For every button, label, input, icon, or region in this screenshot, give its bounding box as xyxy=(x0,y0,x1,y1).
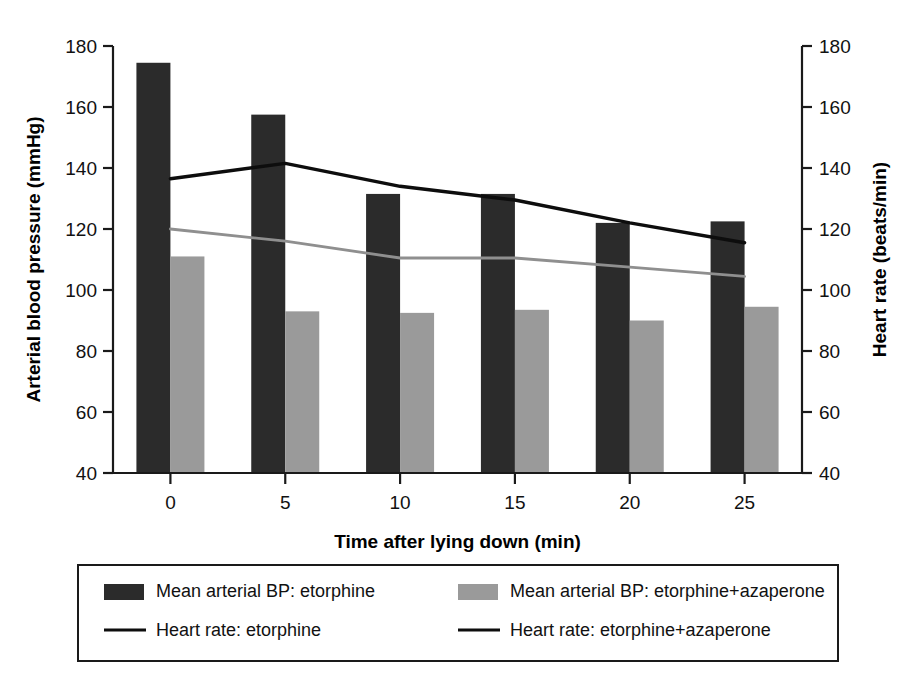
y2-axis-title: Heart rate (beats/min) xyxy=(869,162,890,357)
legend-item: Heart rate: etorphine xyxy=(104,620,321,640)
y-axis-tick-label: 160 xyxy=(65,97,97,118)
legend-swatch-icon xyxy=(104,584,144,600)
y2-axis-tick-label: 140 xyxy=(819,158,851,179)
bar xyxy=(515,310,549,473)
x-axis-tick-label: 0 xyxy=(165,492,176,513)
chart-canvas: 4060801001201401601804060801001201401601… xyxy=(0,0,915,695)
bar xyxy=(170,256,204,473)
x-axis-tick-label: 15 xyxy=(504,492,525,513)
legend-swatch-icon xyxy=(458,584,498,600)
bars-layer xyxy=(136,63,778,473)
chart-figure: 4060801001201401601804060801001201401601… xyxy=(0,0,915,695)
bar xyxy=(481,194,515,473)
bar xyxy=(630,321,664,474)
legend-item: Mean arterial BP: etorphine xyxy=(104,581,375,601)
x-axis-tick-label: 20 xyxy=(619,492,640,513)
y2-axis-tick-label: 160 xyxy=(819,97,851,118)
bar xyxy=(366,194,400,473)
y2-axis-tick-label: 40 xyxy=(819,463,840,484)
y2-axis-tick-label: 80 xyxy=(819,341,840,362)
y2-axis-tick-label: 180 xyxy=(819,36,851,57)
bar xyxy=(596,223,630,473)
bar xyxy=(745,307,779,473)
y-axis-tick-label: 80 xyxy=(76,341,97,362)
x-axis-tick-label: 10 xyxy=(390,492,411,513)
bar xyxy=(400,313,434,473)
legend-box xyxy=(78,565,838,661)
legend-label: Mean arterial BP: etorphine+azaperone xyxy=(510,581,825,601)
y2-axis-tick-label: 120 xyxy=(819,219,851,240)
y-axis-tick-label: 140 xyxy=(65,158,97,179)
legend-item: Heart rate: etorphine+azaperone xyxy=(458,620,771,640)
y-axis-tick-label: 180 xyxy=(65,36,97,57)
y-axis-tick-label: 40 xyxy=(76,463,97,484)
legend-item: Mean arterial BP: etorphine+azaperone xyxy=(458,581,825,601)
x-axis-title: Time after lying down (min) xyxy=(334,531,581,552)
legend-label: Heart rate: etorphine+azaperone xyxy=(510,620,771,640)
legend-label: Heart rate: etorphine xyxy=(156,620,321,640)
y2-axis-tick-label: 60 xyxy=(819,402,840,423)
y2-axis-tick-label: 100 xyxy=(819,280,851,301)
y-axis-tick-label: 120 xyxy=(65,219,97,240)
y-axis-title: Arterial blood pressure (mmHg) xyxy=(23,116,44,402)
y-axis-tick-label: 60 xyxy=(76,402,97,423)
x-axis-tick-label: 5 xyxy=(280,492,291,513)
bar xyxy=(285,311,319,473)
left-and-bottom-axis xyxy=(113,46,802,473)
x-axis-tick-label: 25 xyxy=(734,492,755,513)
legend-label: Mean arterial BP: etorphine xyxy=(156,581,375,601)
bar xyxy=(136,63,170,473)
legend-layer: Mean arterial BP: etorphineMean arterial… xyxy=(78,565,838,661)
bar xyxy=(711,221,745,473)
y-axis-tick-label: 100 xyxy=(65,280,97,301)
